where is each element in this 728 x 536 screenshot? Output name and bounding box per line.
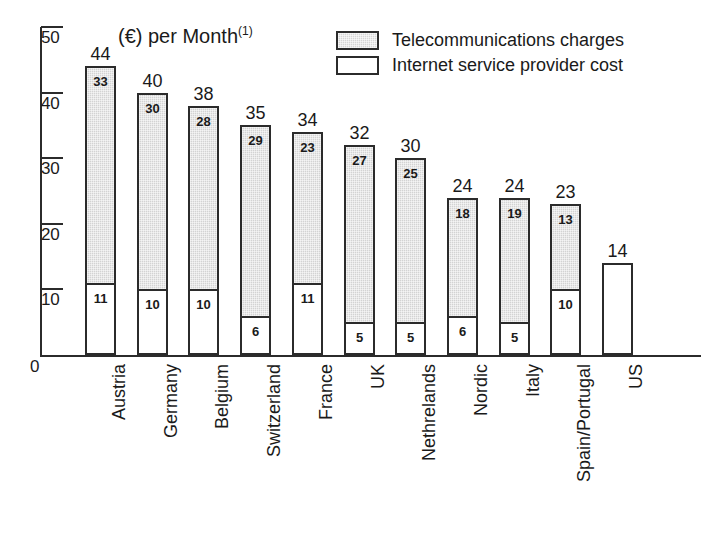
bar-group[interactable]: 52732 [344,0,375,536]
bar-total-value: 24 [493,176,536,196]
y-axis-tick-label: 10 [41,290,59,309]
bar-group[interactable]: 61824 [447,0,478,536]
bar-total-value: 23 [544,182,587,202]
bar-segment-isp[interactable]: 10 [188,289,219,355]
bar-group[interactable]: 113344 [85,0,116,536]
bar-segment-isp[interactable]: 10 [137,289,168,355]
bar-segment-isp[interactable]: 10 [550,289,581,355]
chart-title-text: (€) per Month [118,25,238,47]
bar-segment-telecom-value: 28 [190,114,217,129]
x-axis-category-label: UK [368,364,388,389]
bar-segment-telecom[interactable]: 30 [137,93,168,292]
bar-segment-telecom[interactable]: 28 [188,106,219,292]
stacked-bar[interactable]: 113344 [85,0,116,536]
y-axis-tick-label: 20 [41,225,59,244]
bar-total-value: 34 [286,110,329,130]
bar-segment-telecom-value: 23 [294,140,321,155]
bar-segment-isp-value: 5 [501,330,528,345]
bar-segment-telecom-value: 33 [87,74,114,89]
bar-segment-isp-value: 6 [242,324,269,339]
bar-segment-telecom-value: 18 [449,206,476,221]
stacked-bar[interactable]: 52732 [344,0,375,536]
y-axis-tick-label: 30 [41,159,59,178]
bar-group[interactable]: 14 [602,0,633,536]
bar-segment-isp[interactable]: 5 [499,322,530,355]
stacked-bar[interactable]: 112334 [292,0,323,536]
plot-area: (€) per Month(1) Telecommunications char… [0,0,728,536]
bar-total-value: 35 [234,103,277,123]
bar-group[interactable]: 103040 [137,0,168,536]
bar-total-value: 44 [79,44,122,64]
bar-segment-telecom[interactable]: 19 [499,198,530,325]
bar-segment-isp[interactable] [602,263,633,355]
stacked-bar[interactable]: 102838 [188,0,219,536]
bar-segment-isp-value: 11 [294,291,321,306]
x-axis-category-label: Italy [523,364,543,397]
chart-container: (€) per Month(1) Telecommunications char… [0,0,728,536]
bar-total-value: 14 [596,241,639,261]
bar-segment-telecom[interactable]: 25 [395,158,426,324]
bar-group[interactable]: 51924 [499,0,530,536]
bar-group[interactable]: 102838 [188,0,219,536]
y-axis-tick-label: 50 [41,28,59,47]
x-axis-category-label: Belgium [212,364,232,429]
bar-segment-telecom[interactable]: 13 [550,204,581,291]
bar-segment-isp-value: 5 [397,330,424,345]
bar-segment-telecom[interactable]: 33 [85,66,116,284]
bar-total-value: 24 [441,176,484,196]
bar-segment-isp[interactable]: 5 [395,322,426,355]
x-axis-category-label: Nordic [471,364,491,416]
bar-segment-telecom[interactable]: 29 [240,125,271,317]
bar-segment-telecom-value: 29 [242,133,269,148]
x-axis-category-label: Austria [109,364,129,420]
bar-segment-telecom-value: 25 [397,166,424,181]
y-axis-zero-label: 0 [30,357,39,376]
x-axis-category-label: Spain/Portugal [574,364,594,482]
bar-segment-isp-value: 10 [190,297,217,312]
x-axis-category-label: Nethrelands [419,364,439,461]
stacked-bar[interactable]: 14 [602,0,633,536]
bar-segment-telecom[interactable]: 27 [344,145,375,324]
x-axis-category-label: Germany [161,364,181,438]
bar-segment-telecom[interactable]: 23 [292,132,323,285]
bar-segment-isp-value: 10 [139,297,166,312]
bar-segment-isp-value: 11 [87,291,114,306]
x-axis-category-label: France [316,364,336,420]
bar-segment-isp[interactable]: 5 [344,322,375,355]
bar-segment-telecom[interactable]: 18 [447,198,478,318]
bar-group[interactable]: 112334 [292,0,323,536]
bar-total-value: 30 [389,136,432,156]
bar-total-value: 38 [182,84,225,104]
bar-segment-telecom-value: 13 [552,212,579,227]
bar-segment-telecom-value: 19 [501,206,528,221]
bar-segment-isp[interactable]: 6 [240,316,271,355]
bar-segment-isp[interactable]: 11 [85,283,116,355]
bar-total-value: 40 [131,71,174,91]
bar-segment-telecom-value: 27 [346,153,373,168]
x-axis-category-label: US [626,364,646,389]
bar-segment-isp-value: 10 [552,297,579,312]
bar-segment-isp[interactable]: 11 [292,283,323,355]
bar-segment-isp-value: 6 [449,324,476,339]
y-axis-tick-label: 40 [41,94,59,113]
stacked-bar[interactable]: 61824 [447,0,478,536]
bar-segment-isp-value: 5 [346,330,373,345]
bar-total-value: 32 [338,123,381,143]
bar-segment-telecom-value: 30 [139,101,166,116]
stacked-bar[interactable]: 103040 [137,0,168,536]
bar-segment-isp[interactable]: 6 [447,316,478,355]
x-axis-category-label: Switzerland [264,364,284,457]
stacked-bar[interactable]: 51924 [499,0,530,536]
